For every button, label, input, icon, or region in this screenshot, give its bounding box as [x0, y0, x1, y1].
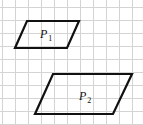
parallelograms: P1P2 — [15, 21, 132, 114]
grid-diagram: P1P2 — [0, 0, 143, 125]
parallelogram-p1: P1 — [15, 21, 79, 48]
shape-label: P1 — [39, 27, 52, 43]
parallelogram-p2: P2 — [35, 74, 132, 114]
background-grid — [0, 0, 143, 125]
shape-label: P2 — [78, 89, 91, 105]
